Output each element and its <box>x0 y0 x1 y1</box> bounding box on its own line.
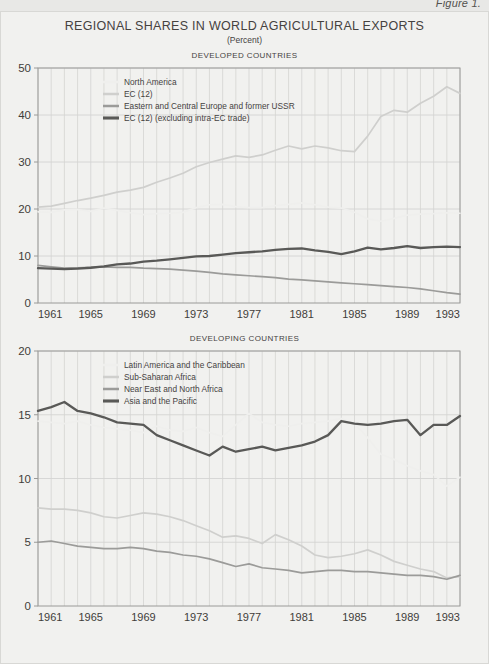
svg-text:Latin America and the Caribbea: Latin America and the Caribbean <box>124 360 245 370</box>
svg-text:1965: 1965 <box>79 308 103 320</box>
svg-text:40: 40 <box>18 109 31 121</box>
panel-title-developing: DEVELOPING COUNTRIES <box>0 334 489 343</box>
svg-text:1985: 1985 <box>342 611 366 623</box>
svg-text:North America: North America <box>124 77 177 87</box>
svg-text:0: 0 <box>25 600 31 612</box>
svg-text:5: 5 <box>25 536 31 548</box>
svg-text:Eastern and Central Europe and: Eastern and Central Europe and former US… <box>124 101 295 111</box>
svg-text:1961: 1961 <box>38 308 62 320</box>
svg-text:Asia and the Pacific: Asia and the Pacific <box>124 396 197 406</box>
figure-sheet: REGIONAL SHARES IN WORLD AGRICULTURAL EX… <box>0 11 489 664</box>
svg-text:EC (12): EC (12) <box>124 89 153 99</box>
svg-text:Near East and North Africa: Near East and North Africa <box>124 384 223 394</box>
panel-developing: DEVELOPING COUNTRIES 0510152019611965196… <box>0 334 489 631</box>
svg-text:1989: 1989 <box>395 308 419 320</box>
svg-text:1965: 1965 <box>79 611 103 623</box>
svg-text:1993: 1993 <box>436 611 460 623</box>
svg-text:1969: 1969 <box>131 611 155 623</box>
svg-text:1961: 1961 <box>38 611 62 623</box>
chart-developing: 0510152019611965196919731977198119851989… <box>0 343 489 631</box>
svg-text:30: 30 <box>18 156 31 168</box>
svg-text:1989: 1989 <box>395 611 419 623</box>
svg-text:0: 0 <box>25 297 31 309</box>
svg-text:10: 10 <box>18 473 31 485</box>
svg-text:1969: 1969 <box>131 308 155 320</box>
chart-title: REGIONAL SHARES IN WORLD AGRICULTURAL EX… <box>0 19 489 33</box>
svg-text:Sub-Saharan Africa: Sub-Saharan Africa <box>124 372 196 382</box>
figure-label: Figure 1. <box>436 0 481 9</box>
chart-developed: 0102030405019611965196919731977198119851… <box>0 60 489 328</box>
svg-text:1981: 1981 <box>290 611 314 623</box>
panel-title-developed: DEVELOPED COUNTRIES <box>0 51 489 60</box>
svg-text:10: 10 <box>18 250 31 262</box>
panel-developed: DEVELOPED COUNTRIES 01020304050196119651… <box>0 51 489 328</box>
svg-text:15: 15 <box>18 409 31 421</box>
svg-text:1977: 1977 <box>237 611 261 623</box>
svg-text:1985: 1985 <box>342 308 366 320</box>
svg-text:50: 50 <box>18 62 31 74</box>
chart-subtitle: (Percent) <box>0 35 489 45</box>
svg-text:1977: 1977 <box>237 308 261 320</box>
svg-text:EC (12) (excluding intra-EC tr: EC (12) (excluding intra-EC trade) <box>124 113 250 123</box>
svg-text:20: 20 <box>18 203 31 215</box>
svg-text:1973: 1973 <box>184 611 208 623</box>
svg-text:1981: 1981 <box>290 308 314 320</box>
svg-text:1993: 1993 <box>436 308 460 320</box>
svg-text:1973: 1973 <box>184 308 208 320</box>
svg-text:20: 20 <box>18 345 31 357</box>
